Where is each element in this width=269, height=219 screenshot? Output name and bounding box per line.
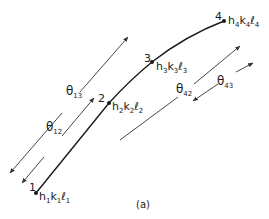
theta12-arrow: [22, 98, 94, 183]
point-3-number: 3: [144, 52, 151, 65]
theta13-label: θ13: [66, 84, 82, 100]
point-1-number: 1: [29, 181, 36, 194]
point-4-number: 4: [215, 10, 222, 23]
reciprocal-lattice-row-diagram: 1 2 3 4 h1k1ℓ1 h2k2ℓ2 h3k3ℓ3 h4k4ℓ4 θ13 …: [0, 0, 269, 219]
point-2-hkl-label: h2k2ℓ2: [112, 100, 143, 115]
theta43-label: θ43: [217, 74, 233, 90]
theta42-label: θ42: [176, 82, 192, 98]
point-2-number: 2: [98, 92, 105, 105]
point-1-hkl-label: h1k1ℓ1: [39, 190, 70, 205]
point-4-hkl-label: h4k4ℓ4: [228, 14, 260, 29]
point-4-dot: [222, 19, 226, 23]
point-3-hkl-label: h3k3ℓ3: [156, 60, 187, 75]
figure-caption: (a): [136, 199, 150, 210]
point-2-dot: [107, 101, 111, 105]
diagram-canvas: 1 2 3 4 h1k1ℓ1 h2k2ℓ2 h3k3ℓ3 h4k4ℓ4 θ13 …: [0, 0, 269, 219]
